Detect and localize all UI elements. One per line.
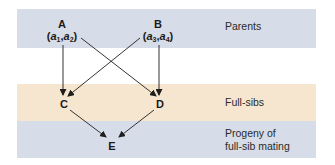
row-label-parents: Parents [225,20,261,33]
node-c: C [60,98,68,110]
node-a-label: A [58,18,66,30]
edge-c-e [70,110,106,137]
node-b-alleles: (a3,a4) [143,30,173,46]
edge-d-e [119,110,154,137]
row-label-progeny-2: full-sib mating [225,140,290,153]
row-label-progeny-1: Progeny of [225,127,276,140]
node-d: D [156,98,164,110]
edge-b-c [68,38,140,96]
node-b-label: B [154,18,162,30]
node-e: E [108,140,115,152]
row-label-fullsibs: Full-sibs [225,96,264,109]
edge-a-d [81,38,156,96]
node-a-alleles: (a1,a2) [47,30,77,46]
